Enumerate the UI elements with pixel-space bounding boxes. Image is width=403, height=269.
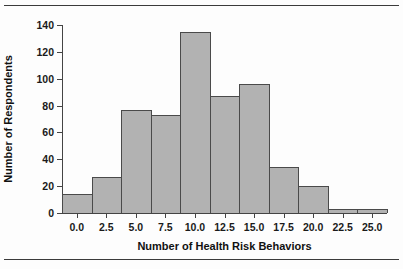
x-tick-mark [106,213,107,218]
x-tick-mark [77,213,78,218]
plot-area: 020406080100120140 0.02.55.07.510.012.51… [62,25,387,213]
x-tick-mark [343,213,344,218]
y-tick-mark [57,25,62,26]
x-tick-label: 10.0 [185,221,205,233]
y-tick-label: 100 [36,73,54,85]
x-tick-label: 22.5 [332,221,352,233]
x-tick-label: 5.0 [129,221,144,233]
histogram-bar [62,194,93,213]
top-rule [4,5,399,6]
x-tick-label: 2.5 [99,221,114,233]
figure-panel: 020406080100120140 0.02.55.07.510.012.51… [0,0,403,269]
x-tick-mark [313,213,314,218]
histogram-bar [180,32,211,213]
histogram-bar [298,186,329,213]
histogram-bar [151,115,182,213]
histogram-bars [62,25,387,213]
histogram-bar [210,96,241,213]
y-tick-mark [57,213,62,214]
x-tick-label: 20.0 [303,221,323,233]
histogram-bar [269,167,300,213]
y-tick-label: 40 [42,153,54,165]
x-tick-mark [136,213,137,218]
x-tick-mark [165,213,166,218]
x-tick-mark [195,213,196,218]
y-tick-label: 140 [36,19,54,31]
x-tick-label: 15.0 [244,221,264,233]
histogram-bar [121,110,152,213]
histogram-bar [239,84,270,213]
y-tick-mark [57,106,62,107]
y-tick-label: 80 [42,100,54,112]
y-tick-mark [57,159,62,160]
x-tick-label: 0.0 [69,221,84,233]
y-tick-mark [57,132,62,133]
x-tick-mark [284,213,285,218]
y-axis-label: Number of Respondents [2,55,14,183]
x-tick-label: 25.0 [362,221,382,233]
bottom-rule [4,259,399,260]
y-tick-label: 20 [42,180,54,192]
x-tick-label: 12.5 [214,221,234,233]
x-tick-label: 17.5 [273,221,293,233]
y-tick-label: 60 [42,126,54,138]
x-axis-label: Number of Health Risk Behaviors [62,240,387,252]
x-tick-mark [225,213,226,218]
y-tick-mark [57,79,62,80]
y-tick-mark [57,186,62,187]
y-tick-label: 0 [48,207,54,219]
y-tick-mark [57,52,62,53]
x-tick-mark [254,213,255,218]
x-tick-label: 7.5 [158,221,173,233]
y-tick-label: 120 [36,46,54,58]
x-tick-mark [372,213,373,218]
histogram-bar [92,177,123,213]
